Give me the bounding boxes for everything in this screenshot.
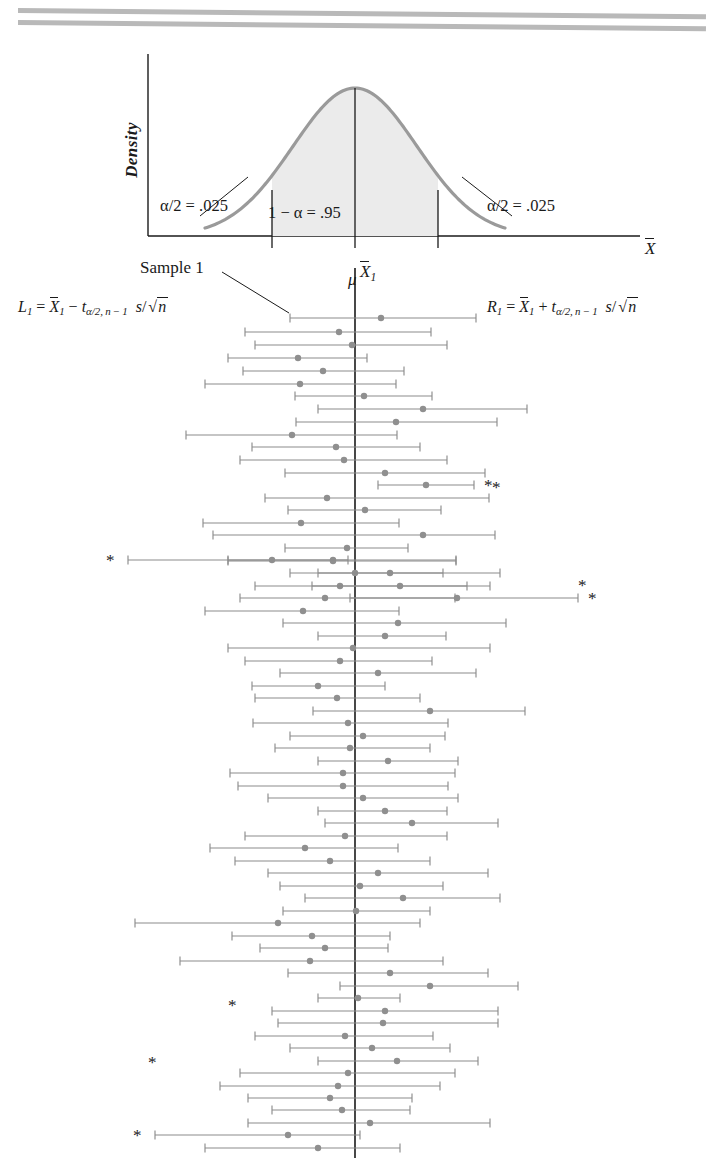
- sample-mean-dot: [335, 1083, 341, 1089]
- sample-mean-dot: [347, 745, 353, 751]
- sample-mean-dot: [285, 1132, 291, 1138]
- interval-row: [318, 1057, 478, 1066]
- miss-marker-asterisk: *: [588, 589, 597, 608]
- interval-row: [318, 994, 400, 1003]
- interval-row: [318, 405, 527, 414]
- interval-row: [318, 807, 447, 816]
- interval-row: [180, 957, 443, 966]
- sample-mean-dot: [375, 670, 381, 676]
- sample-mean-dot: [269, 557, 275, 563]
- interval-row: [205, 607, 399, 616]
- interval-row: [252, 682, 385, 691]
- sample-mean-dot: [382, 808, 388, 814]
- sample-mean-dot: [315, 1145, 321, 1151]
- interval-row: *: [378, 476, 493, 495]
- sample-mean-dot: [327, 1095, 333, 1101]
- interval-row: [278, 1019, 498, 1028]
- sample-mean-dot: [289, 432, 295, 438]
- interval-row: [245, 657, 432, 666]
- sample-mean-dot: [395, 620, 401, 626]
- sample-mean-dot: [339, 1107, 345, 1113]
- sample-mean-dot: [322, 595, 328, 601]
- interval-row: [265, 494, 489, 503]
- sample-mean-dot: [342, 833, 348, 839]
- interval-row: [280, 669, 476, 678]
- sample-mean-dot: [393, 419, 399, 425]
- sample-mean-dot: [342, 1033, 348, 1039]
- sample-mean-dot: [320, 368, 326, 374]
- interval-row: [283, 907, 430, 916]
- sample-mean-dot: [349, 342, 355, 348]
- sample-mean-dot: [298, 520, 304, 526]
- interval-row: [313, 707, 525, 716]
- sample-mean-dot: [302, 845, 308, 851]
- interval-row: [230, 769, 455, 778]
- sample-mean-dot: [345, 720, 351, 726]
- sample-mean-dot: [309, 933, 315, 939]
- sample-mean-dot: [333, 444, 339, 450]
- interval-row: [228, 354, 367, 363]
- interval-row: [268, 869, 488, 878]
- sample-mean-dot: [400, 895, 406, 901]
- sample-mean-dot: [394, 1058, 400, 1064]
- interval-row: [205, 1144, 400, 1153]
- sample-mean-dot: [357, 883, 363, 889]
- sample-mean-dot: [340, 770, 346, 776]
- sample-mean-dot: [397, 583, 403, 589]
- interval-row: [203, 519, 399, 528]
- miss-marker-asterisk: *: [106, 551, 115, 570]
- sample-mean-dot: [336, 329, 342, 335]
- interval-row: [280, 882, 443, 891]
- interval-row: [253, 719, 448, 728]
- interval-row: [288, 506, 441, 515]
- interval-row: [318, 757, 458, 766]
- interval-row: [245, 832, 447, 841]
- sample-mean-dot: [420, 406, 426, 412]
- sample-mean-dot: [427, 708, 433, 714]
- interval-row: [240, 1069, 455, 1078]
- interval-row: [248, 1094, 412, 1103]
- sample-mean-dot: [380, 1020, 386, 1026]
- sample-mean-dot: [341, 457, 347, 463]
- sample-mean-dot: [420, 532, 426, 538]
- sample-mean-dot: [350, 645, 356, 651]
- interval-row: [283, 619, 506, 628]
- interval-row: [232, 932, 390, 941]
- sample-mean-dot: [382, 633, 388, 639]
- sample-mean-dot: [340, 783, 346, 789]
- miss-marker-asterisk: *: [578, 576, 587, 595]
- interval-row: [248, 1119, 490, 1128]
- sample-mean-dot: [361, 393, 367, 399]
- interval-row: *: [133, 1126, 360, 1145]
- interval-row: [268, 794, 458, 803]
- interval-row: [238, 782, 448, 791]
- sample-mean-dot: [387, 970, 393, 976]
- interval-row: [285, 469, 485, 478]
- miss-marker-asterisk: *: [148, 1053, 157, 1072]
- interval-row: [272, 1106, 410, 1115]
- interval-row: [245, 328, 431, 337]
- sample-mean-dot: [353, 908, 359, 914]
- interval-row: [135, 919, 420, 928]
- sample-mean-dot: [382, 470, 388, 476]
- interval-row: [318, 632, 446, 641]
- interval-row: [296, 418, 497, 427]
- confidence-intervals-plot: ********: [0, 0, 709, 1158]
- interval-row: [290, 1044, 450, 1053]
- sample-mean-dot: [334, 695, 340, 701]
- interval-row: [305, 894, 500, 903]
- sample-1-leader: [222, 272, 289, 313]
- interval-row: [235, 857, 430, 866]
- interval-row: [290, 732, 445, 741]
- interval-row: [295, 392, 432, 401]
- interval-row: [228, 557, 456, 566]
- sample-mean-dot: [382, 1008, 388, 1014]
- sample-mean-dot: [322, 945, 328, 951]
- interval-row: [255, 341, 447, 350]
- miss-marker-asterisk: *: [133, 1126, 142, 1145]
- interval-row: [220, 1082, 440, 1091]
- interval-row: [186, 431, 397, 440]
- interval-row: [255, 694, 420, 703]
- interval-row: [205, 380, 396, 389]
- sample-mean-dot: [345, 1070, 351, 1076]
